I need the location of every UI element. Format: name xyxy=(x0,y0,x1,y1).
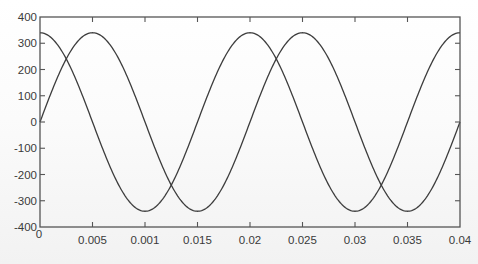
x-tick-label: 0.035 xyxy=(393,234,422,246)
y-tick-label: -300 xyxy=(14,195,37,207)
series-sine-line xyxy=(40,33,460,212)
x-tick-label: 0.001 xyxy=(131,234,160,246)
x-tick-label: 0.02 xyxy=(239,234,261,246)
y-tick-label: -200 xyxy=(14,169,37,181)
y-axis: 4003002001000-100-200-300-400 xyxy=(14,11,460,233)
y-tick-label: 300 xyxy=(18,37,37,49)
y-tick-label: 200 xyxy=(18,64,37,76)
x-tick-label: 0.025 xyxy=(288,234,317,246)
y-tick-label: -400 xyxy=(14,221,37,233)
x-tick-label: 0.03 xyxy=(344,234,366,246)
y-tick-label: 100 xyxy=(18,90,37,102)
chart: 00.0050.0010.0150.020.0250.030.0350.04 4… xyxy=(0,0,478,264)
plot-curves xyxy=(40,33,460,212)
y-tick-label: -100 xyxy=(14,142,37,154)
x-tick-label: 0.005 xyxy=(78,234,107,246)
x-tick-label: 0.015 xyxy=(183,234,212,246)
line-chart: 00.0050.0010.0150.020.0250.030.0350.04 4… xyxy=(0,0,478,264)
x-tick-label: 0.04 xyxy=(449,234,472,246)
y-tick-label: 400 xyxy=(18,11,37,23)
y-tick-label: 0 xyxy=(31,116,37,128)
